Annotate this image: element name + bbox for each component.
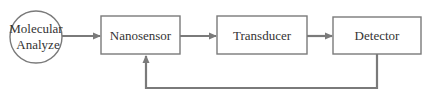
feedback-arrow-detector-to-nanosensor [146,54,377,88]
node-detector: Detector [333,17,421,54]
node-nanosensor: Nanosensor [101,16,180,54]
node-molecular-analyze: Molecular Analyze [9,11,63,63]
nanosensor-label: Nanosensor [110,28,172,43]
molecular-label-line1: Molecular [9,21,63,36]
node-transducer: Transducer [217,16,307,54]
transducer-label: Transducer [233,28,292,43]
block-diagram: Molecular Analyze Nanosensor Transducer … [0,0,441,95]
molecular-label-line2: Analyze [16,37,60,52]
detector-label: Detector [355,28,400,43]
